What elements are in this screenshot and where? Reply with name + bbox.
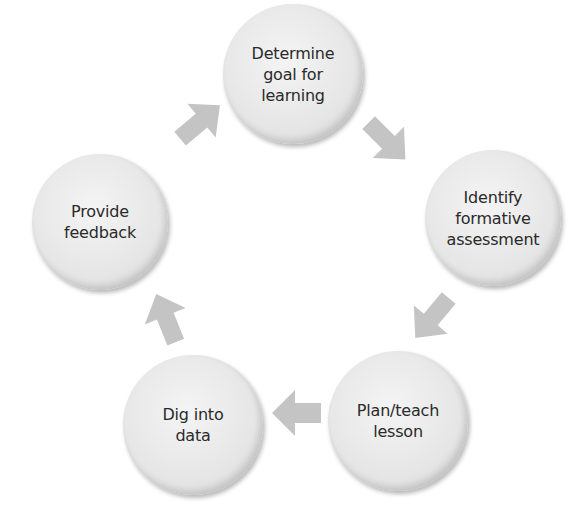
arrow-feedback-to-goal-icon [166,88,234,155]
node-label: Identify formative assessment [447,187,540,250]
arrow-goal-to-assessment-icon [353,107,421,175]
arrow-assessment-to-teach-icon [398,284,465,352]
node-label: Plan/teach lesson [357,400,439,442]
node-label: Dig into data [162,404,223,446]
node-label: Provide feedback [64,201,136,243]
node-dig-into-data: Dig into data [123,355,263,495]
learning-cycle-diagram: Determine goal for learning Identify for… [0,0,575,530]
node-plan-teach-lesson: Plan/teach lesson [328,351,468,491]
node-identify-assessment: Identify formative assessment [425,150,561,286]
node-determine-goal: Determine goal for learning [223,4,363,144]
node-provide-feedback: Provide feedback [32,154,168,290]
arrow-data-to-feedback-icon [136,286,196,351]
arrow-teach-to-data-icon [272,390,321,436]
node-label: Determine goal for learning [252,43,335,106]
